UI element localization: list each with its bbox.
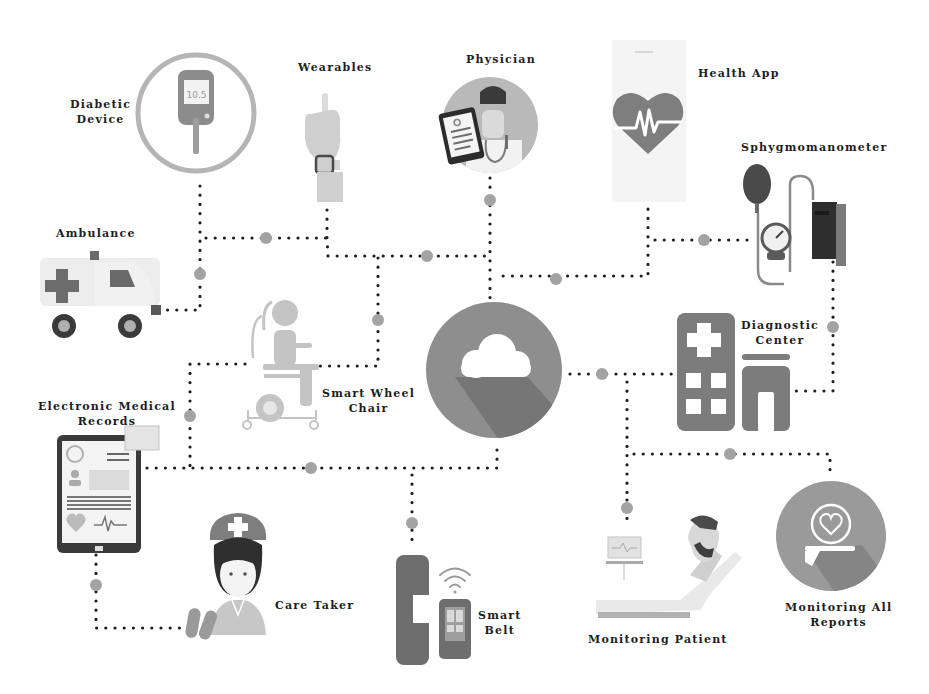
- heart-pulse-phone-icon: [612, 40, 686, 202]
- node-monitoring-patient[interactable]: [596, 515, 742, 618]
- label-line: Monitoring Patient: [588, 632, 728, 647]
- cloud-hub[interactable]: [426, 302, 600, 470]
- label-line: Reports: [785, 615, 892, 630]
- glucose-reading: 10.5: [186, 90, 206, 100]
- tablet-records-icon: [57, 426, 159, 553]
- blood-pressure-cuff-icon: [743, 164, 846, 284]
- label-diabetic-device: Diabetic Device: [70, 97, 131, 127]
- node-smart-wheel-chair[interactable]: [243, 300, 319, 429]
- belt-phone-wifi-icon: [396, 555, 471, 665]
- label-line: Diabetic: [70, 97, 131, 112]
- label-monitoring-patient: Monitoring Patient: [588, 632, 728, 647]
- glucose-meter-icon: 10.5: [178, 70, 214, 154]
- label-health-app: Health App: [698, 66, 780, 81]
- label-line: Records: [38, 414, 176, 429]
- node-ambulance[interactable]: [40, 251, 161, 338]
- ambulance-icon: [40, 251, 161, 338]
- node-care-taker[interactable]: [184, 513, 266, 641]
- label-line: Health App: [698, 66, 780, 81]
- label-sphygmomanometer: Sphygmomanometer: [741, 140, 888, 155]
- label-smart-belt: Smart Belt: [478, 608, 522, 638]
- label-line: Care Taker: [275, 598, 354, 613]
- node-wearables[interactable]: [305, 93, 343, 202]
- label-line: Monitoring All: [785, 600, 892, 615]
- label-care-taker: Care Taker: [275, 598, 354, 613]
- label-monitoring-all-reports: Monitoring All Reports: [785, 600, 892, 630]
- label-line: Smart: [478, 608, 522, 623]
- label-diagnostic-center: Diagnostic Center: [741, 318, 819, 348]
- label-line: Wearables: [298, 60, 372, 75]
- label-line: Physician: [466, 52, 536, 67]
- label-line: Electronic Medical: [38, 399, 176, 414]
- hand-heart-care-icon: [776, 481, 895, 600]
- nurse-icon: [184, 513, 266, 641]
- node-monitoring-all-reports[interactable]: [776, 481, 895, 600]
- label-line: Belt: [478, 623, 522, 638]
- label-line: Device: [70, 112, 131, 127]
- label-line: Ambulance: [56, 226, 136, 241]
- label-wearables: Wearables: [298, 60, 372, 75]
- label-smart-wheel-chair: Smart Wheel Chair: [322, 386, 415, 416]
- doctor-icon: [438, 77, 538, 180]
- node-sphygmomanometer[interactable]: [743, 164, 846, 284]
- label-line: Diagnostic: [741, 318, 819, 333]
- label-electronic-medical-records: Electronic Medical Records: [38, 399, 176, 429]
- label-line: Chair: [322, 401, 415, 416]
- node-physician[interactable]: [438, 77, 538, 180]
- node-smart-belt[interactable]: [396, 555, 471, 665]
- wheelchair-icon: [243, 300, 319, 429]
- node-electronic-medical-records[interactable]: [57, 426, 159, 553]
- label-line: Sphygmomanometer: [741, 140, 888, 155]
- label-physician: Physician: [466, 52, 536, 67]
- label-line: Smart Wheel: [322, 386, 415, 401]
- node-health-app[interactable]: [612, 40, 686, 202]
- node-diabetic-device[interactable]: 10.5: [138, 55, 254, 171]
- label-line: Center: [741, 333, 819, 348]
- label-ambulance: Ambulance: [56, 226, 136, 241]
- smartwatch-hand-icon: [305, 93, 343, 202]
- patient-bed-monitor-icon: [596, 515, 742, 618]
